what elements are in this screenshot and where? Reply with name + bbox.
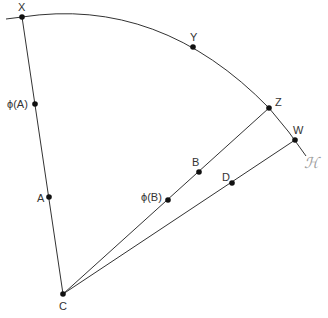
point-phiB bbox=[165, 197, 171, 203]
segment-CW bbox=[63, 140, 295, 294]
point-Z bbox=[266, 105, 272, 111]
label-phiB: ϕ(B) bbox=[141, 191, 162, 203]
label-A: A bbox=[37, 192, 45, 204]
label-script-H: ℋ bbox=[304, 154, 321, 172]
label-B: B bbox=[192, 156, 199, 168]
label-X: X bbox=[18, 1, 26, 13]
point-phiA bbox=[32, 101, 38, 107]
geometry-diagram: X Y Z W ϕ(A) A B ϕ(B) D C ℋ bbox=[0, 0, 328, 318]
label-phiA: ϕ(A) bbox=[7, 98, 28, 110]
label-C: C bbox=[59, 300, 67, 312]
point-C bbox=[60, 291, 66, 297]
label-Y: Y bbox=[190, 31, 198, 43]
point-Y bbox=[190, 44, 196, 50]
point-A bbox=[46, 194, 52, 200]
point-W bbox=[292, 137, 298, 143]
label-W: W bbox=[293, 124, 304, 136]
point-D bbox=[229, 180, 235, 186]
label-D: D bbox=[222, 171, 230, 183]
point-B bbox=[196, 169, 202, 175]
point-X bbox=[19, 14, 25, 20]
label-Z: Z bbox=[275, 96, 282, 108]
arc-H bbox=[6, 14, 306, 156]
segment-CX bbox=[22, 17, 63, 294]
